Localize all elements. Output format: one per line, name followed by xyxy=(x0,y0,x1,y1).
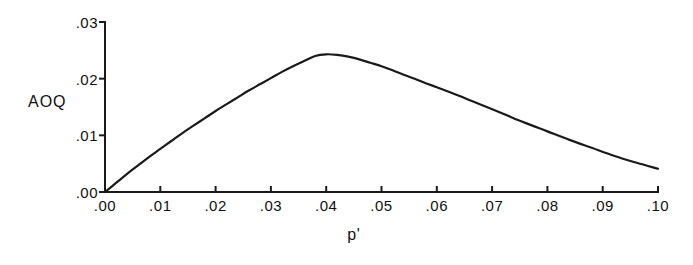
aoq-curve-line xyxy=(105,54,658,192)
y-axis-tick-label: .00 xyxy=(58,184,98,201)
x-axis-tick-label: .00 xyxy=(94,197,116,214)
x-axis-tick-label: .01 xyxy=(149,197,171,214)
x-axis-tick-label: .05 xyxy=(370,197,392,214)
x-axis-tick-label: .09 xyxy=(592,197,614,214)
x-axis-tick-label: .10 xyxy=(647,197,669,214)
x-axis-tick-label: .08 xyxy=(536,197,558,214)
y-axis-tick-label: .03 xyxy=(58,14,98,31)
x-axis-tick-label: .04 xyxy=(315,197,337,214)
x-axis-tick-label: .03 xyxy=(260,197,282,214)
y-axis-tick-label: .02 xyxy=(58,70,98,87)
x-axis-tick-label: .07 xyxy=(481,197,503,214)
x-axis-tick-label: .02 xyxy=(204,197,226,214)
x-axis-tick-label: .06 xyxy=(426,197,448,214)
x-axis-title: p' xyxy=(347,226,360,244)
aoq-chart-figure: .00.01.02.03 .00.01.02.03.04.05.06.07.08… xyxy=(0,0,693,265)
y-axis-tick-label: .01 xyxy=(58,127,98,144)
y-axis-title: AOQ xyxy=(28,93,67,111)
